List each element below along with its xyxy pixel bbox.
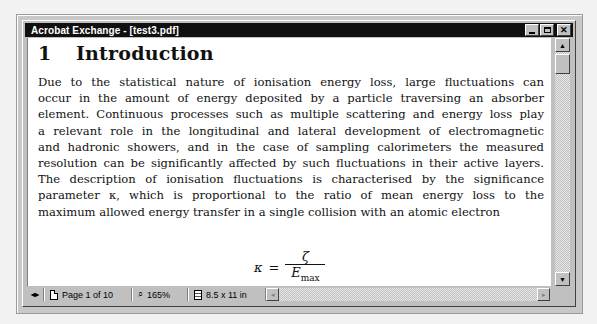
paragraph-line: resolution can be significantly affected…	[38, 155, 544, 171]
paragraph-line: occur in the amount of energy deposited …	[38, 90, 544, 106]
paragraph-line: The description of ionisation fluctuatio…	[38, 171, 544, 187]
paragraph-line: element. Continuous processes such as mu…	[38, 106, 544, 122]
paragraph-line: and hadronic showers, and in the case of…	[38, 139, 544, 155]
page-nav-arrows-icon: ◂▸	[31, 290, 39, 299]
formula-denominator: Emax	[291, 265, 319, 286]
resize-corner	[555, 287, 570, 302]
minimize-icon	[529, 32, 535, 34]
minimize-button[interactable]	[525, 24, 539, 36]
arrow-down-icon: ▼	[559, 276, 566, 283]
document-view[interactable]: 1Introduction Due to the statistical nat…	[27, 38, 551, 286]
close-icon: ✕	[560, 26, 568, 35]
arrow-up-icon: ▲	[559, 42, 566, 49]
arrow-left-icon: ◂	[271, 291, 275, 299]
vertical-scrollbar[interactable]: ▲ ▼	[555, 38, 570, 286]
scroll-down-button[interactable]: ▼	[555, 272, 570, 286]
acrobat-window: Acrobat Exchange - [test3.pdf] ✕ 1Introd…	[22, 20, 576, 307]
pdf-page: 1Introduction Due to the statistical nat…	[38, 42, 544, 220]
kappa-formula: κ = ζ Emax	[254, 250, 325, 286]
section-heading: 1Introduction	[38, 42, 544, 64]
zoom-label: 165%	[147, 290, 170, 300]
page-number-field[interactable]: Page 1 of 10	[44, 288, 132, 301]
intro-paragraph: Due to the statistical nature of ionisat…	[38, 74, 544, 220]
arrow-right-icon: ▸	[542, 291, 546, 299]
scroll-left-button[interactable]: ◂	[266, 288, 279, 301]
page-label: Page 1 of 10	[62, 290, 113, 300]
formula-fraction: ζ Emax	[285, 250, 325, 286]
zoom-field[interactable]: ⌕ 165%	[132, 288, 188, 301]
section-title: Introduction	[76, 42, 214, 64]
scroll-right-button[interactable]: ▸	[537, 288, 550, 301]
window-controls: ✕	[524, 24, 571, 36]
maximize-button[interactable]	[540, 24, 554, 36]
vertical-scroll-thumb[interactable]	[555, 54, 570, 74]
title-bar[interactable]: Acrobat Exchange - [test3.pdf] ✕	[25, 23, 573, 37]
close-button[interactable]: ✕	[557, 24, 571, 36]
denominator-subscript: max	[301, 273, 320, 283]
window-title: Acrobat Exchange - [test3.pdf]	[31, 25, 179, 36]
paragraph-line: parameter κ, which is proportional to th…	[38, 187, 544, 203]
page-icon	[50, 290, 58, 300]
section-number: 1	[38, 42, 76, 64]
denominator-main: E	[291, 265, 301, 280]
horizontal-scrollbar[interactable]: ◂ ▸	[266, 288, 550, 301]
formula-equals: =	[269, 260, 280, 275]
paragraph-line: maximum allowed energy transfer in a sin…	[38, 204, 544, 220]
paragraph-line: a relevant role in the longitudinal and …	[38, 123, 544, 139]
formula-numerator: ζ	[302, 250, 309, 264]
page-size-icon	[194, 290, 202, 300]
status-bar: ◂▸ Page 1 of 10 ⌕ 165% 8.5 x 11 in ◂ ▸	[27, 287, 550, 302]
maximize-icon	[544, 27, 551, 33]
paragraph-line: Due to the statistical nature of ionisat…	[38, 74, 544, 90]
formula-lhs: κ	[254, 260, 263, 275]
page-size-field[interactable]: 8.5 x 11 in	[188, 288, 266, 301]
magnifier-icon: ⌕	[138, 289, 143, 300]
page-nav-button[interactable]: ◂▸	[27, 288, 44, 301]
page-size-label: 8.5 x 11 in	[206, 290, 247, 300]
scroll-up-button[interactable]: ▲	[555, 38, 570, 52]
